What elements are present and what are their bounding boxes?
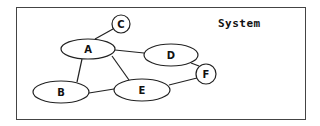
node-label: E (139, 85, 146, 96)
node-e: E (114, 79, 170, 101)
node-label: A (84, 44, 92, 55)
node-a: A (61, 39, 115, 59)
node-label: B (57, 87, 65, 98)
node-label: D (167, 50, 175, 61)
node-c: C (112, 15, 130, 33)
edge-a-d (115, 50, 144, 53)
node-d: D (144, 44, 198, 66)
graph-canvas: ABCDEF (0, 0, 320, 126)
node-f: F (196, 64, 216, 84)
edge-a-e (112, 56, 129, 80)
edge-a-c (95, 29, 113, 39)
node-label: C (117, 19, 124, 30)
node-label: F (203, 69, 210, 80)
node-b: B (33, 81, 89, 103)
edge-e-f (169, 78, 197, 85)
edge-d-f (191, 63, 199, 66)
edge-b-e (89, 89, 114, 93)
edge-a-b (77, 59, 82, 82)
